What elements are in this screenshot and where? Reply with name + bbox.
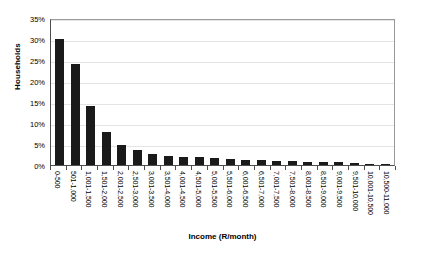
y-axis-tick-labels: 0%5%10%15%20%25%30%35% <box>22 14 48 166</box>
x-axis-tick-marks <box>50 166 395 170</box>
x-axis-category-label: 9,501-10,000 <box>352 171 359 211</box>
x-axis-tick <box>81 166 82 170</box>
x-axis-category-label: 8,501-9,000 <box>320 171 327 207</box>
bar <box>71 64 80 165</box>
x-axis-tick <box>66 166 67 170</box>
bar-column <box>362 20 378 165</box>
bar-column <box>347 20 363 165</box>
x-axis-category-label: 5,001-5,500 <box>211 171 218 207</box>
x-axis-tick <box>348 166 349 170</box>
bar-column <box>223 20 239 165</box>
bar <box>303 162 312 165</box>
bar <box>133 150 142 165</box>
x-axis-category-label: 2,001-2,500 <box>117 171 124 207</box>
x-axis-title: Income (R/month) <box>50 232 395 241</box>
x-axis-tick <box>364 166 365 170</box>
bar-column <box>83 20 99 165</box>
x-axis-category-label: 4,001-4,500 <box>179 171 186 207</box>
x-axis-tick <box>144 166 145 170</box>
x-axis-tick <box>317 166 318 170</box>
bar-column <box>192 20 208 165</box>
x-axis-category-label: 3,001-3,500 <box>148 171 155 207</box>
x-axis-tick <box>97 166 98 170</box>
y-axis-tick-label: 30% <box>30 36 45 45</box>
x-axis-tick <box>191 166 192 170</box>
y-axis-title: Households <box>13 22 22 112</box>
bar <box>55 39 64 165</box>
bar <box>86 106 95 165</box>
x-axis-category-label: 5,501-6,000 <box>226 171 233 207</box>
bar-column <box>207 20 223 165</box>
x-axis-category-label: 9,001-9,500 <box>336 171 343 207</box>
x-axis-tick <box>254 166 255 170</box>
bar-column <box>331 20 347 165</box>
x-axis-category-label: 1,501-2,000 <box>101 171 108 207</box>
x-axis-category-label: 0-500 <box>54 171 61 188</box>
bar-column <box>300 20 316 165</box>
y-axis-tick-label: 15% <box>30 99 45 108</box>
bar-column <box>145 20 161 165</box>
bar <box>241 160 250 165</box>
bar <box>226 159 235 165</box>
x-axis-category-label: 2,501-3,000 <box>132 171 139 207</box>
bar <box>148 154 157 165</box>
bar <box>195 157 204 165</box>
bar <box>381 164 390 165</box>
x-axis-category-label: 6,501-7,000 <box>258 171 265 207</box>
bar-series <box>51 20 394 165</box>
bar-column <box>130 20 146 165</box>
x-axis-category-label: 3,501-4,000 <box>164 171 171 207</box>
bar-column <box>378 20 394 165</box>
bar-column <box>99 20 115 165</box>
x-axis-category-label: 8,001-8,500 <box>305 171 312 207</box>
x-axis-tick <box>223 166 224 170</box>
bar-column <box>316 20 332 165</box>
x-axis-tick <box>207 166 208 170</box>
x-axis-category-label: 10,001-10,500 <box>367 171 374 215</box>
y-axis-tick-label: 20% <box>30 78 45 87</box>
x-axis-tick <box>332 166 333 170</box>
y-axis-tick-label: 25% <box>30 57 45 66</box>
bar <box>117 145 126 165</box>
x-axis-category-label: 7,501-8,000 <box>289 171 296 207</box>
y-axis-tick-label: 5% <box>34 141 45 150</box>
x-axis-category-label: 1,001-1,500 <box>85 171 92 207</box>
bar <box>210 158 219 165</box>
x-axis-tick <box>301 166 302 170</box>
bar <box>350 163 359 165</box>
x-axis-tick <box>270 166 271 170</box>
bar <box>334 162 343 165</box>
bar-column <box>285 20 301 165</box>
bar-column <box>52 20 68 165</box>
bar <box>102 132 111 165</box>
bar-column <box>269 20 285 165</box>
x-axis-tick <box>379 166 380 170</box>
bar-column <box>161 20 177 165</box>
x-axis-category-labels: 0-500501-1,0001,001-1,5001,501-2,0002,00… <box>50 171 395 227</box>
bar <box>164 156 173 165</box>
bar-column <box>254 20 270 165</box>
y-axis-tick-label: 10% <box>30 120 45 129</box>
y-axis-tick-label: 0% <box>34 162 45 171</box>
x-axis-tick <box>50 166 51 170</box>
x-axis-tick <box>175 166 176 170</box>
bar <box>179 157 188 165</box>
income-distribution-chart: Households 0%5%10%15%20%25%30%35% 0-5005… <box>0 0 425 254</box>
x-axis-tick <box>113 166 114 170</box>
x-axis-category-label: 4,501-5,000 <box>195 171 202 207</box>
bar <box>272 161 281 165</box>
x-axis-category-label: 501-1,000 <box>70 171 77 202</box>
x-axis-tick <box>395 166 396 170</box>
bar <box>288 161 297 165</box>
x-axis-tick <box>128 166 129 170</box>
bar <box>257 160 266 165</box>
plot-area <box>50 19 395 166</box>
bar-column <box>114 20 130 165</box>
x-axis-category-label: 6,001-6,500 <box>242 171 249 207</box>
bar <box>365 164 374 165</box>
x-axis-tick <box>285 166 286 170</box>
bar <box>319 162 328 165</box>
x-axis-category-label: 7,001-7,500 <box>273 171 280 207</box>
x-axis-category-label: 10,500-11,000 <box>383 171 390 214</box>
y-axis-tick-label: 35% <box>30 15 45 24</box>
